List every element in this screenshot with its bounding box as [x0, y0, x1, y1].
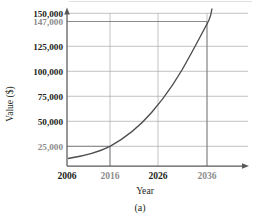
y-tick-label-25000: 25,000	[38, 142, 64, 152]
axes	[64, 8, 249, 169]
value-curve	[68, 9, 212, 159]
x-tick-label-2016: 2016	[100, 170, 119, 181]
chart-svg: 150,000 147,000 125,000 100,000 75,000 5…	[0, 0, 253, 217]
y-tick-label-147000: 147,000	[33, 17, 63, 27]
gridlines-vertical	[110, 13, 207, 166]
figure-panel: 150,000 147,000 125,000 100,000 75,000 5…	[0, 0, 253, 217]
y-tick-label-100000: 100,000	[33, 67, 63, 77]
x-tick-label-2036: 2036	[197, 170, 216, 181]
x-tick-label-2006: 2006	[57, 170, 76, 181]
x-tick-labels: 2006 2016 2026 2036	[57, 170, 216, 181]
x-tick-label-2026: 2026	[148, 170, 167, 181]
y-tick-label-125000: 125,000	[33, 42, 63, 52]
y-axis-title: Value ($)	[4, 86, 16, 121]
x-axis-arrow-icon	[242, 163, 249, 169]
gridlines-horizontal	[67, 13, 248, 146]
y-tick-label-50000: 50,000	[38, 117, 64, 127]
figure-caption: (a)	[134, 202, 145, 214]
annotation-guides	[67, 22, 207, 167]
y-tick-label-75000: 75,000	[38, 92, 64, 102]
x-axis-title: Year	[136, 185, 154, 196]
y-axis-arrow-icon	[64, 8, 70, 15]
y-tick-labels: 150,000 147,000 125,000 100,000 75,000 5…	[33, 9, 63, 152]
